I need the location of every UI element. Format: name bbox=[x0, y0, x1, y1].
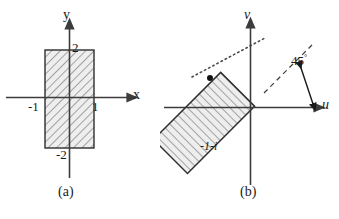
axis-x-label: x bbox=[133, 88, 140, 102]
tick-label-x-left: -1 bbox=[28, 100, 39, 113]
axis-y-label: y bbox=[63, 8, 70, 22]
region-rectangle-uv bbox=[160, 72, 255, 173]
axis-v-label: v bbox=[244, 8, 250, 22]
panel-a-graphic bbox=[0, 0, 170, 219]
caption-panel-b: (b) bbox=[240, 185, 256, 199]
angle-value: 45 bbox=[291, 53, 304, 68]
degree-symbol: ° bbox=[304, 53, 307, 62]
axis-u-label: u bbox=[322, 98, 329, 112]
point-label: -1-i bbox=[200, 140, 217, 152]
figure-container: y x 2 -2 -1 1 (a) bbox=[0, 0, 339, 219]
point-marker bbox=[207, 75, 213, 81]
tick-label-y-top: 2 bbox=[72, 41, 79, 54]
diagonal-dotted-line bbox=[192, 38, 265, 77]
tick-label-y-bottom: -2 bbox=[56, 148, 67, 161]
caption-panel-a: (a) bbox=[58, 185, 74, 199]
angle-label: 45° bbox=[291, 54, 307, 67]
tick-label-x-right: 1 bbox=[92, 100, 99, 113]
